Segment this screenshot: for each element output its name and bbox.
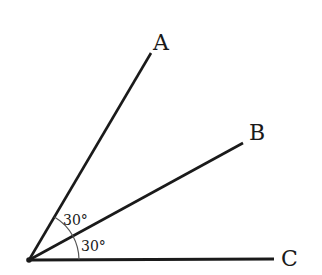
ray-a	[29, 53, 151, 260]
vertex-point	[26, 257, 32, 263]
angle-label-ab: 30°	[63, 212, 88, 228]
angle-arc-bc	[73, 236, 79, 260]
ray-b	[29, 143, 243, 260]
angle-label-bc: 30°	[81, 238, 106, 254]
angle-diagram: A B C 30° 30°	[0, 0, 322, 275]
ray-c	[29, 259, 274, 260]
label-b: B	[249, 120, 265, 145]
label-c: C	[281, 246, 298, 271]
label-a: A	[152, 30, 170, 55]
